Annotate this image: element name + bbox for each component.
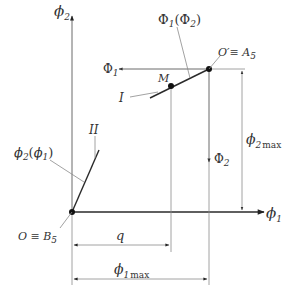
Phi2-label: Φ2 [214,152,230,168]
leader-Phi1Phi2 [177,27,190,78]
load-diagram: ϕ2 ϕ1 Φ1(Φ2) O′≡ A5 Φ1 M I II ϕ2(ϕ1) Φ2 … [0,0,290,295]
phi2-axis-label: ϕ2 [54,2,70,22]
Phi1Phi2-label: Φ1(Φ2) [158,12,201,29]
leader-origin [60,212,72,228]
curve-I-label: I [118,91,124,105]
phi1-axis-label: ϕ1 [266,204,282,224]
o-prime-label: O′≡ A5 [218,46,256,61]
q-label: q [116,228,124,243]
phi1max-label: ϕ1max [114,261,149,280]
curve-II [72,150,99,212]
phi2max-label: ϕ2max [246,131,281,150]
m-label: M [157,72,170,85]
Phi1-label: Φ1 [103,62,119,78]
origin-label: O ≡ B5 [18,230,57,245]
leader-phi2phi1 [50,160,84,182]
phi2phi1-label: ϕ2(ϕ1) [14,145,53,162]
curve-II-label: II [88,123,99,137]
